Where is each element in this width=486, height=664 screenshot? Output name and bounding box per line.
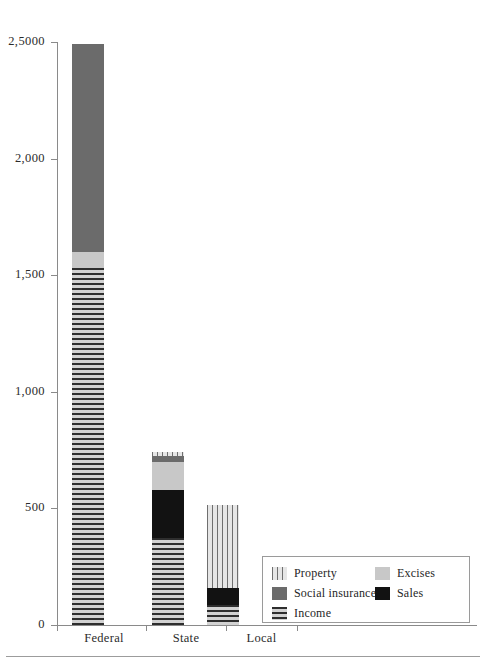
bar-segment-state-social-insurance bbox=[152, 456, 184, 462]
y-tick-500 bbox=[51, 508, 58, 509]
bar-segment-local-property bbox=[207, 505, 239, 588]
y-axis-label-1500: 1,500 bbox=[0, 267, 45, 282]
bar-state bbox=[152, 452, 184, 625]
income-swatch-icon bbox=[272, 607, 287, 620]
bar-segment-federal-social-insurance bbox=[72, 44, 104, 252]
bar-segment-federal-excises bbox=[72, 252, 104, 268]
bar-federal bbox=[72, 44, 104, 625]
y-axis-line bbox=[57, 42, 58, 625]
social-insurance-swatch-icon bbox=[272, 587, 287, 600]
sales-swatch-icon bbox=[375, 587, 390, 600]
bar-segment-state-sales bbox=[152, 490, 184, 538]
x-axis-label-state: State bbox=[146, 631, 226, 646]
x-axis-label-federal: Federal bbox=[62, 631, 146, 646]
bar-local bbox=[207, 505, 239, 625]
bar-segment-state-income bbox=[152, 538, 184, 625]
bar-segment-local-income bbox=[207, 605, 239, 625]
legend: Property Social insurance Income Excises… bbox=[262, 556, 470, 623]
y-tick-1000 bbox=[51, 392, 58, 393]
y-axis-label-2500: 2,5000 bbox=[0, 34, 45, 49]
legend-item-excises: Excises bbox=[375, 564, 435, 582]
legend-label-income: Income bbox=[294, 607, 331, 620]
x-tick-end bbox=[297, 625, 298, 631]
y-tick-2500 bbox=[51, 42, 58, 43]
y-tick-1500 bbox=[51, 275, 58, 276]
y-tick-2000 bbox=[51, 159, 58, 160]
bar-segment-state-property bbox=[152, 452, 184, 456]
legend-column-left: Property Social insurance Income bbox=[272, 564, 376, 624]
stacked-bar-chart: 2,5000 2,000 1,500 1,000 500 0 Federal S… bbox=[0, 0, 486, 664]
y-axis-label-1000: 1,000 bbox=[0, 384, 45, 399]
legend-item-income: Income bbox=[272, 604, 376, 622]
excises-swatch-icon bbox=[375, 567, 390, 580]
legend-label-property: Property bbox=[294, 567, 337, 580]
y-axis-label-500: 500 bbox=[0, 500, 45, 515]
x-tick-start bbox=[57, 625, 58, 631]
figure-bottom-rule bbox=[6, 656, 480, 657]
x-axis-label-local: Local bbox=[226, 631, 297, 646]
y-axis-label-2000: 2,000 bbox=[0, 151, 45, 166]
legend-item-sales: Sales bbox=[375, 584, 435, 602]
legend-label-social-insurance: Social insurance bbox=[294, 587, 376, 600]
property-swatch-icon bbox=[272, 567, 287, 580]
legend-column-right: Excises Sales bbox=[375, 564, 435, 604]
bar-segment-federal-income bbox=[72, 268, 104, 625]
bar-segment-state-excises bbox=[152, 462, 184, 490]
legend-item-social-insurance: Social insurance bbox=[272, 584, 376, 602]
legend-label-excises: Excises bbox=[397, 567, 435, 580]
bar-segment-local-sales bbox=[207, 588, 239, 605]
x-axis-line bbox=[57, 625, 477, 626]
legend-item-property: Property bbox=[272, 564, 376, 582]
y-axis-label-0: 0 bbox=[0, 617, 45, 632]
legend-label-sales: Sales bbox=[397, 587, 423, 600]
